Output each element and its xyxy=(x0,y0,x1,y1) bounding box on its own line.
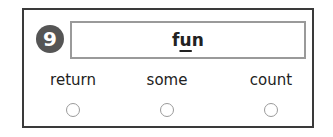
question-number-badge: 9 xyxy=(36,25,64,53)
option-label: some xyxy=(122,71,212,93)
word-part-after: n xyxy=(192,30,204,50)
option-radio[interactable] xyxy=(264,103,278,117)
option-some[interactable]: some xyxy=(122,71,212,121)
option-radio[interactable] xyxy=(66,103,80,117)
target-word: fun xyxy=(172,30,204,50)
option-radio[interactable] xyxy=(160,103,174,117)
word-part-underlined: u xyxy=(179,30,191,50)
option-count[interactable]: count xyxy=(226,71,316,121)
option-return[interactable]: return xyxy=(28,71,118,121)
target-word-box: fun xyxy=(70,21,306,59)
option-label: count xyxy=(226,71,316,93)
option-label: return xyxy=(28,71,118,93)
